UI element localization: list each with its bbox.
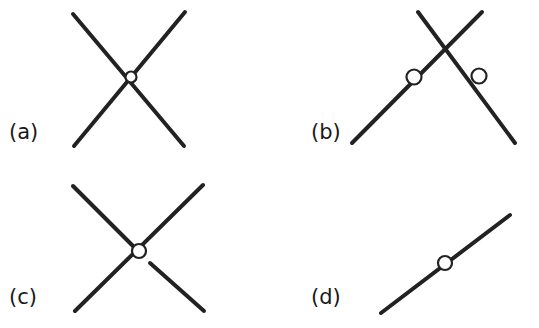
panel-label-c: (c) — [9, 287, 37, 308]
panel-b-left-leg-marker — [407, 70, 422, 85]
figure-canvas — [0, 0, 539, 328]
panel-c-vertex-marker — [132, 244, 146, 258]
panel-label-a: (a) — [9, 122, 38, 143]
panel-d-midpoint-marker — [438, 256, 452, 270]
panel-b-right-leg-marker — [472, 69, 487, 84]
panel-a-vertex-marker — [126, 72, 137, 83]
figure-background — [0, 0, 539, 328]
panel-label-b: (b) — [311, 122, 341, 143]
panel-label-d: (d) — [311, 287, 341, 308]
